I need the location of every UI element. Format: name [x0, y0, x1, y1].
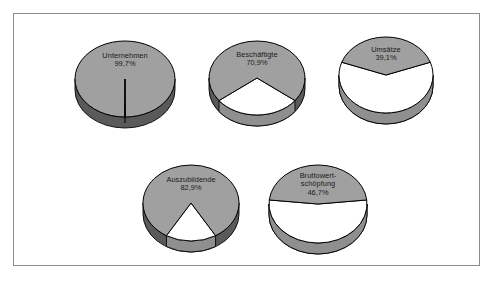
pie-chart-umsaetze: Umsätze39,1% — [336, 34, 436, 127]
pie-slice-value — [269, 165, 366, 204]
pie-chart-bruttowertschoepfung: Bruttowert-schöpfung46,7% — [266, 162, 370, 257]
chart-figure-frame: Unternehmen99,7%Beschäftigte70,9%Umsätze… — [13, 13, 480, 266]
pie-chart-unternehmen: Unternehmen99,7% — [72, 38, 178, 131]
pie-chart-auszubildende: Auszubildende82,9% — [140, 162, 242, 255]
pie-chart-beschaeftigte: Beschäftigte70,9% — [206, 38, 308, 129]
